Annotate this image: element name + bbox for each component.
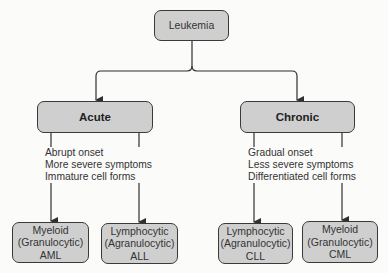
chronic-characteristics: Gradual onset Less severe symptoms Diffe… xyxy=(248,147,356,183)
node-aml: Myeloid (Granulocytic) AML xyxy=(12,222,89,263)
chronic-characteristic: Less severe symptoms xyxy=(248,159,356,171)
chronic-characteristic: Differentiated cell forms xyxy=(248,171,356,183)
node-all-line1: Lymphocytic xyxy=(111,225,169,238)
node-cml-line1: Myeloid xyxy=(322,223,358,236)
node-aml-abbr: AML xyxy=(40,249,62,262)
node-leukemia-label: Leukemia xyxy=(169,19,215,32)
node-chronic: Chronic xyxy=(240,101,355,133)
node-leukemia: Leukemia xyxy=(154,10,229,41)
acute-characteristics: Abrupt onset More severe symptoms Immatu… xyxy=(45,147,152,183)
leukemia-classification-diagram: Leukemia Acute Chronic Abrupt onset More… xyxy=(0,0,388,273)
node-all-line2: (Agranulocytic) xyxy=(104,237,174,250)
node-cml-line2: (Granulocytic) xyxy=(307,236,372,249)
chronic-characteristic: Gradual onset xyxy=(248,147,356,159)
node-chronic-label: Chronic xyxy=(276,111,319,124)
node-acute: Acute xyxy=(37,101,153,133)
node-cml-abbr: CML xyxy=(329,248,351,261)
acute-characteristic: Immature cell forms xyxy=(45,171,152,183)
node-cll-line1: Lymphocytic xyxy=(227,225,285,238)
node-cll-line2: (Agranulocytic) xyxy=(220,237,290,250)
node-all-abbr: ALL xyxy=(130,250,149,263)
node-all: Lymphocytic (Agranulocytic) ALL xyxy=(101,223,178,264)
node-aml-line2: (Granulocytic) xyxy=(18,236,83,249)
node-aml-line1: Myeloid xyxy=(32,224,68,237)
node-cml: Myeloid (Granulocytic) CML xyxy=(302,221,378,263)
acute-characteristic: Abrupt onset xyxy=(45,147,152,159)
node-cll-abbr: CLL xyxy=(246,250,265,263)
acute-characteristic: More severe symptoms xyxy=(45,159,152,171)
node-acute-label: Acute xyxy=(79,111,111,124)
node-cll: Lymphocytic (Agranulocytic) CLL xyxy=(218,223,293,264)
